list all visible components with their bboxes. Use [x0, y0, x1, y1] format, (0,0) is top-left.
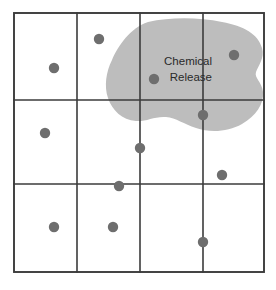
site-dot [94, 34, 104, 44]
site-dot [49, 222, 59, 232]
site-dot [229, 50, 239, 60]
plume-label-line-2: Release [170, 71, 212, 83]
chemical-release-diagram: Chemical Release [0, 0, 276, 290]
site-dot [40, 128, 50, 138]
diagram-canvas: Chemical Release [0, 0, 276, 290]
site-dot [217, 170, 227, 180]
site-dot [49, 63, 59, 73]
site-dot [108, 222, 118, 232]
site-dot [114, 181, 124, 191]
site-dot [135, 143, 145, 153]
site-dot [198, 110, 208, 120]
site-dot [149, 74, 159, 84]
plume-label-line-1: Chemical [164, 55, 212, 67]
site-dot [198, 237, 208, 247]
